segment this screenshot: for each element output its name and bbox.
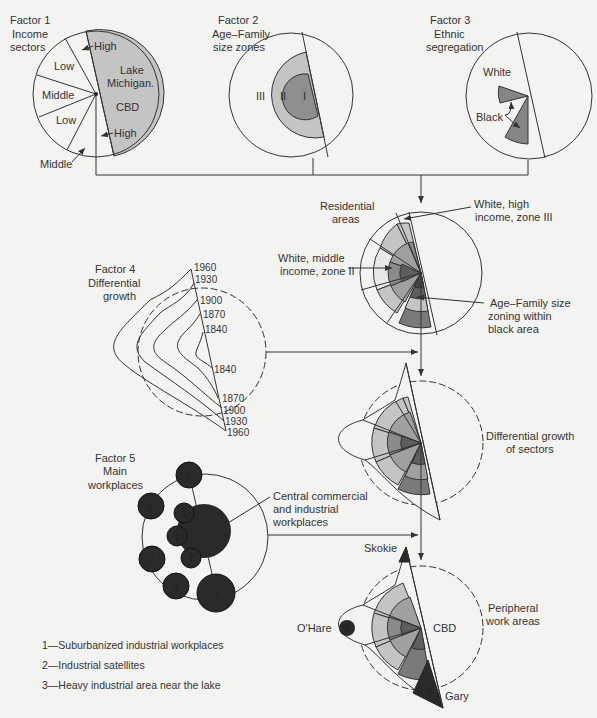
legend-item-3: 3—Heavy industrial area near the lake [42, 675, 224, 695]
michigan-label: Michigan. [107, 77, 154, 89]
svg-text:1: 1 [182, 508, 187, 518]
svg-text:3: 3 [213, 588, 218, 598]
zone-ii-label: II [280, 90, 286, 102]
differential-growth-of-sectors: Differential growth of sectors [338, 363, 574, 560]
peripheral-label-2: work areas [485, 615, 540, 627]
callout-white-middle-2: income, zone II [280, 265, 355, 277]
factor3-ethnic-segregation: Factor 3 Ethnic segregation White Black [426, 14, 592, 175]
urban-structure-diagram: Factor 1 Income sectors High Low Middle … [0, 0, 597, 718]
factor3-title: Factor 3 [430, 14, 470, 26]
svg-text:2: 2 [173, 581, 178, 591]
factor3-subtitle2: segregation [426, 41, 484, 53]
factor5-subtitle1: Main [103, 465, 127, 477]
sector-middle-2: Middle [40, 158, 72, 170]
year-top-1930: 1930 [195, 274, 218, 285]
legend-item-2: 2—Industrial satellites [42, 655, 224, 675]
factor4-title: Factor 4 [95, 263, 135, 275]
svg-text:2: 2 [186, 470, 191, 480]
year-top-1960: 1960 [194, 262, 217, 273]
ohare-label: O'Hare [297, 622, 332, 634]
year-bottom-1840: 1840 [214, 364, 237, 375]
residential-title1: Residential [320, 200, 374, 212]
callout-age-family-3: black area [488, 323, 540, 335]
workplace-legend: 1—Suburbanized industrial workplaces 2—I… [42, 635, 224, 695]
factor5-callout-3: workplaces [272, 516, 329, 528]
lake-label: Lake [120, 64, 144, 76]
white-label: White [483, 66, 511, 78]
sector-high-bottom: High [114, 127, 137, 139]
legend-item-1: 1—Suburbanized industrial workplaces [42, 635, 224, 655]
factor5-main-workplaces: Factor 5 Main workplaces 2 2 2 2 1 1 1 3… [87, 452, 418, 612]
growth-label-2: of sectors [506, 443, 554, 455]
factor3-subtitle1: Ethnic [434, 28, 465, 40]
sector-low-1: Low [54, 60, 74, 72]
year-bottom-1960: 1960 [227, 427, 250, 438]
svg-text:2: 2 [344, 623, 349, 633]
factor1-title: Factor 1 [10, 14, 50, 26]
factor1-subtitle2: sectors [10, 41, 46, 53]
callout-white-high-1: White, high [474, 198, 529, 210]
svg-text:1: 1 [189, 553, 194, 563]
factor5-title: Factor 5 [95, 452, 135, 464]
callout-white-middle-1: White, middle [278, 252, 345, 264]
factor1-cbd-label: CBD [116, 101, 139, 113]
year-bottom-1870: 1870 [222, 393, 245, 404]
year-top-1840: 1840 [205, 324, 228, 335]
factor4-subtitle1: Differential [88, 277, 140, 289]
factor4-dashed-circle [138, 288, 266, 416]
year-bottom-1900: 1900 [223, 405, 246, 416]
final-cbd-label: CBD [433, 622, 456, 634]
gary-label: Gary [445, 690, 469, 702]
peripheral-work-areas-diagram: Skokie O'Hare CBD Gary Peripheral work a… [297, 542, 540, 708]
callout-age-family-1: Age–Family size [490, 297, 571, 309]
year-top-1870: 1870 [203, 309, 226, 320]
year-bottom-1930: 1930 [225, 416, 248, 427]
year-top-1900: 1900 [200, 295, 223, 306]
peripheral-label-1: Peripheral [488, 602, 538, 614]
svg-text:2: 2 [148, 501, 153, 511]
factor5-subtitle2: workplaces [87, 479, 144, 491]
svg-text:1: 1 [175, 531, 180, 541]
sector-middle-1: Middle [42, 89, 74, 101]
callout-white-high-2: income, zone III [475, 211, 553, 223]
factor5-callout-2: and industrial [273, 503, 338, 515]
zone-iii-label: III [256, 90, 265, 102]
factor2-title: Factor 2 [218, 14, 258, 26]
skokie-label: Skokie [364, 542, 397, 554]
sector-high-top: High [94, 40, 117, 52]
factor2-age-family-zones: Factor 2 Age–Family size zones III II I [212, 14, 353, 175]
skokie-industrial-area [399, 547, 410, 562]
factor4-subtitle2: growth [103, 290, 136, 302]
factor5-callout-1: Central commercial [273, 490, 368, 502]
factor2-subtitle1: Age–Family [212, 28, 271, 40]
residential-title2: areas [332, 213, 360, 225]
callout-age-family-2: zoning within [488, 310, 552, 322]
sector-low-2: Low [56, 114, 76, 126]
growth-label-1: Differential growth [486, 430, 574, 442]
svg-text:3: 3 [426, 686, 431, 696]
black-area-2 [505, 96, 528, 144]
residential-areas-diagram: Residential areas White, high income, zo… [278, 198, 571, 376]
black-area-1 [498, 86, 528, 103]
black-label: Black [476, 111, 503, 123]
factor-connectors [96, 157, 528, 203]
svg-text:2: 2 [149, 554, 154, 564]
factor1-subtitle1: Income [12, 28, 48, 40]
zone-i-label: I [303, 90, 306, 102]
factor1-income-sectors: Factor 1 Income sectors High Low Middle … [10, 14, 164, 170]
